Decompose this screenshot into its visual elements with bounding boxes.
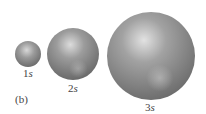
label-3s-letter: s [151,101,155,113]
label-1s-letter: s [29,67,33,79]
sphere-3s [107,12,195,100]
sphere-2s [47,28,99,80]
label-2s-letter: s [74,82,78,94]
sphere-1s [15,41,41,67]
label-1s: 1s [23,67,33,79]
label-2s: 2s [68,82,78,94]
panel-label: (b) [15,93,28,105]
label-3s: 3s [145,101,155,113]
